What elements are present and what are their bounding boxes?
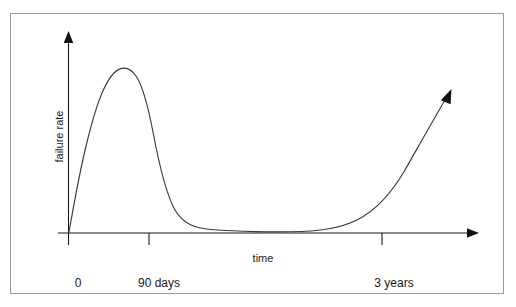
figure-frame: time failure rate 0 90 days 3 years	[10, 13, 504, 294]
y-axis-arrowhead-icon	[64, 31, 74, 43]
curve-arrowhead-icon	[441, 89, 452, 104]
x-axis-arrowhead-icon	[467, 228, 479, 238]
x-axis-title: time	[243, 253, 283, 264]
screenshot-root: time failure rate 0 90 days 3 years	[0, 0, 516, 307]
y-axis-title: failure rate	[54, 113, 65, 163]
x-tick-label-0: 0	[67, 277, 89, 289]
x-tick-label-90-days: 90 days	[126, 277, 192, 289]
x-tick-label-3-years: 3 years	[361, 277, 427, 289]
failure-rate-curve	[69, 68, 445, 233]
